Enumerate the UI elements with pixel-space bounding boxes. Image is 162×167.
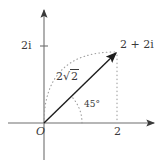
real-axis-tick-label: 2 xyxy=(114,126,121,137)
argument-angle-label: 45° xyxy=(84,100,100,109)
modulus-radicand: 2 xyxy=(70,69,79,83)
modulus-coefficient: 2 xyxy=(56,70,63,83)
argand-diagram-canvas xyxy=(0,0,162,167)
modulus-radical: √2 xyxy=(63,71,79,82)
argument-arc-guide xyxy=(71,96,82,123)
point-label-2-plus-2i: 2 + 2i xyxy=(120,39,154,50)
argand-diagram-figure: 2i 2 + 2i 2√2 45° O 2 xyxy=(0,0,162,167)
complex-number-vector xyxy=(44,53,116,123)
imaginary-axis-tick-label: 2i xyxy=(21,40,32,51)
modulus-label: 2√2 xyxy=(56,71,79,82)
origin-label: O xyxy=(36,126,45,137)
